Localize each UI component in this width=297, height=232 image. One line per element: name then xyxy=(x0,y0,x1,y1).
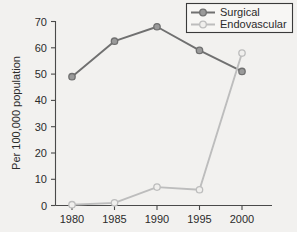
series-line-endovascular xyxy=(72,53,242,205)
y-axis-title: Per 100,000 population xyxy=(10,56,22,170)
data-series-layer xyxy=(69,24,245,208)
x-tick-label-1995: 1995 xyxy=(187,213,211,225)
series-endovascular xyxy=(69,50,245,208)
legend-label-endovascular: Endovascular xyxy=(220,18,287,30)
y-tick-label-10: 10 xyxy=(35,173,47,185)
data-point-surgical-1985[interactable] xyxy=(111,38,117,44)
data-point-surgical-1980[interactable] xyxy=(69,74,75,80)
x-axis-ticks xyxy=(72,206,242,211)
line-chart: 70 60 50 40 30 20 10 0 Per 100,000 popul… xyxy=(0,0,297,232)
y-axis-ticks xyxy=(51,22,56,206)
series-line-surgical xyxy=(72,27,242,77)
chart-container: 70 60 50 40 30 20 10 0 Per 100,000 popul… xyxy=(0,0,297,232)
data-point-endovascular-1980[interactable] xyxy=(69,202,75,208)
data-point-endovascular-1990[interactable] xyxy=(154,184,160,190)
y-tick-label-30: 30 xyxy=(35,121,47,133)
x-tick-label-1985: 1985 xyxy=(102,213,126,225)
legend-marker-endovascular xyxy=(200,21,207,28)
y-tick-label-60: 60 xyxy=(35,42,47,54)
data-point-surgical-2000[interactable] xyxy=(239,68,245,74)
data-point-endovascular-1985[interactable] xyxy=(111,200,117,206)
x-tick-label-1990: 1990 xyxy=(145,213,169,225)
data-point-surgical-1990[interactable] xyxy=(154,24,160,30)
legend-marker-surgical xyxy=(200,9,207,16)
y-tick-label-40: 40 xyxy=(35,94,47,106)
y-tick-label-50: 50 xyxy=(35,68,47,80)
data-point-endovascular-2000[interactable] xyxy=(239,50,245,56)
x-tick-label-1980: 1980 xyxy=(60,213,84,225)
x-tick-label-2000: 2000 xyxy=(230,213,254,225)
legend: Surgical Endovascular xyxy=(187,4,293,33)
data-point-surgical-1995[interactable] xyxy=(196,47,202,53)
y-tick-label-0: 0 xyxy=(41,200,47,212)
y-tick-label-20: 20 xyxy=(35,147,47,159)
legend-label-surgical: Surgical xyxy=(220,6,260,18)
data-point-endovascular-1995[interactable] xyxy=(196,187,202,193)
y-tick-label-70: 70 xyxy=(35,16,47,28)
